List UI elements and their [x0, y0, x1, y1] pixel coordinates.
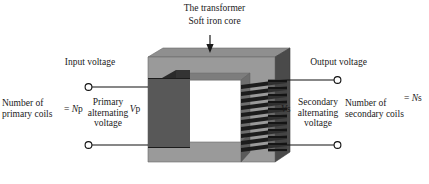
secondary-coils-s: s	[418, 93, 422, 103]
number-of-primary-coils-line2: primary coils	[2, 109, 64, 120]
primary-alternating-voltage-label: Primary alternating voltage	[84, 97, 132, 129]
primary-voltage-line2: alternating	[84, 108, 132, 119]
number-of-secondary-coils-line2: secondary coils	[345, 109, 411, 120]
secondary-voltage-line1: Secondary	[292, 97, 344, 108]
transformer-diagram: The transformer Soft iron core Input vol…	[0, 0, 429, 184]
number-of-primary-coils-label: Number of primary coils	[2, 98, 64, 119]
secondary-terminal-bottom[interactable]	[287, 142, 341, 149]
diagram-title: The transformer	[152, 3, 277, 14]
core-window-top-shadow	[181, 73, 250, 80]
secondary-voltage-line3: voltage	[292, 118, 344, 129]
primary-coils-p: p	[78, 104, 83, 114]
soft-iron-core-label: Soft iron core	[152, 16, 277, 27]
number-of-secondary-coils-label: Number of secondary coils	[345, 98, 411, 119]
number-of-secondary-coils-line1: Number of	[345, 98, 411, 109]
primary-coils-equals: =	[64, 104, 72, 114]
core-top-face	[148, 48, 290, 57]
primary-voltage-line3: voltage	[84, 118, 132, 129]
primary-voltage-line1: Primary	[84, 97, 132, 108]
number-of-primary-coils-line1: Number of	[2, 98, 64, 109]
primary-coil-body	[148, 78, 190, 148]
secondary-voltage-line2: alternating	[292, 108, 344, 119]
secondary-coils-symbol: = Ns	[404, 93, 428, 104]
secondary-coils-equals: =	[404, 93, 412, 103]
primary-terminal-top[interactable]	[85, 84, 148, 91]
transformer-illustration	[0, 0, 429, 184]
primary-voltage-symbol: Vp	[126, 104, 144, 115]
output-voltage-label: Output voltage	[291, 57, 386, 68]
primary-terminal-bottom[interactable]	[85, 142, 148, 149]
primary-voltage-p: p	[136, 104, 141, 114]
input-voltage-label: Input voltage	[45, 57, 135, 68]
secondary-terminal-top[interactable]	[287, 77, 341, 84]
secondary-alternating-voltage-label: Secondary alternating voltage	[292, 97, 344, 129]
secondary-voltage-s: s	[287, 104, 291, 114]
